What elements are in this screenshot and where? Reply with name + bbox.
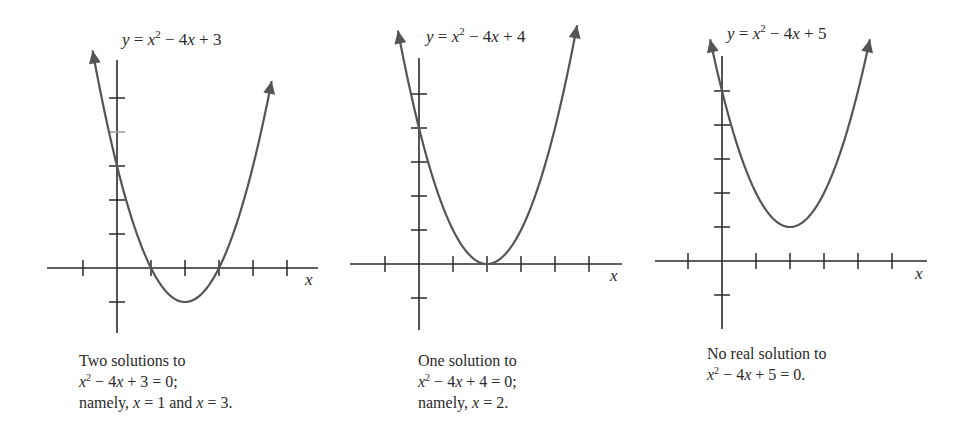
arrowhead-icon	[394, 31, 406, 45]
arrowhead-icon	[569, 25, 581, 39]
caption-line: No real solution to	[707, 343, 827, 364]
parabola-curve	[93, 50, 272, 302]
graph-1-x-axis-label: x	[305, 270, 313, 290]
caption-line: x2 − 4x + 3 = 0;	[79, 371, 232, 392]
graph-2-equation: y = x2 − 4x + 4	[426, 27, 525, 47]
graph-1	[47, 50, 318, 333]
parabola-curve	[398, 25, 577, 264]
graph-2-caption: One solution to x2 − 4x + 4 = 0; namely,…	[418, 350, 517, 413]
graph-3-caption: No real solution to x2 − 4x + 5 = 0.	[707, 343, 827, 385]
caption-line: namely, x = 2.	[418, 392, 517, 413]
graph-2	[350, 25, 622, 330]
graph-1-equation: y = x2 − 4x + 3	[122, 30, 221, 50]
graph-3	[655, 39, 927, 329]
graph-3-equation: y = x2 − 4x + 5	[727, 24, 826, 44]
arrowhead-icon	[861, 39, 873, 53]
arrowhead-icon	[707, 39, 719, 53]
caption-line: x2 − 4x + 4 = 0;	[418, 371, 517, 392]
caption-line: One solution to	[418, 350, 517, 371]
caption-line: namely, x = 1 and x = 3.	[79, 392, 232, 413]
graph-1-caption: Two solutions to x2 − 4x + 3 = 0; namely…	[79, 350, 232, 413]
caption-line: Two solutions to	[79, 350, 232, 371]
parabola-curve	[710, 39, 870, 227]
graph-3-x-axis-label: x	[915, 264, 923, 284]
arrowhead-icon	[89, 50, 101, 64]
caption-line: x2 − 4x + 5 = 0.	[707, 364, 827, 385]
arrowhead-icon	[263, 81, 275, 95]
graph-2-x-axis-label: x	[610, 266, 618, 286]
